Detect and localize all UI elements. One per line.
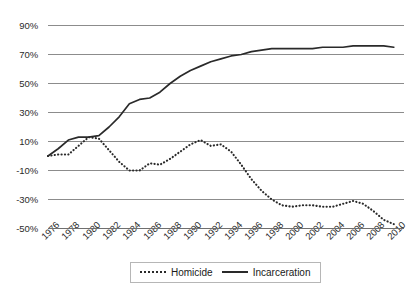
legend-label: Homicide <box>171 267 213 278</box>
dotted-line-icon <box>140 268 166 276</box>
legend-label: Incarceration <box>253 267 311 278</box>
series-line-homicide <box>48 137 394 224</box>
gridlines <box>48 26 404 229</box>
legend-item-homicide: Homicide <box>140 267 213 278</box>
legend-item-incarceration: Incarceration <box>222 267 311 278</box>
chart-legend: HomicideIncarceration <box>130 262 321 283</box>
chart-container: 90%70%50%30%10%-10%-30%-50% 197619781980… <box>0 0 417 296</box>
plot-area <box>0 0 417 296</box>
solid-line-icon <box>222 268 248 276</box>
